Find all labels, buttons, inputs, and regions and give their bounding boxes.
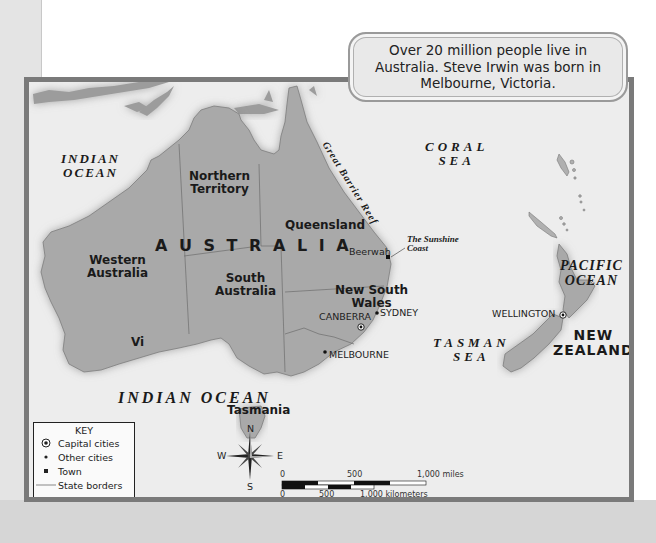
map-key: KEY Capital cities Other cities Town — [33, 422, 135, 497]
sydney-label: SYDNEY — [380, 307, 418, 318]
melbourne-city-marker — [323, 350, 327, 354]
compass-west-label: W — [217, 450, 226, 461]
tasmania-label: Tasmania — [227, 404, 290, 417]
scale-km-0: 0 — [280, 490, 285, 497]
canberra-label: CANBERRA — [319, 311, 371, 322]
indonesia-islands — [33, 82, 317, 116]
indian-ocean-nw-line1: INDIAN — [61, 152, 120, 166]
indian-ocean-label-nw: INDIAN OCEAN — [61, 152, 120, 179]
pacific-ocean-label: PACIFIC OCEAN — [560, 259, 623, 288]
scale-km-500: 500 — [319, 490, 334, 497]
scale-miles-500: 500 — [347, 470, 362, 479]
key-label-other-cities: Other cities — [58, 452, 113, 463]
town-square-icon — [34, 466, 58, 476]
scale-bar — [282, 481, 426, 489]
south-australia-label: South Australia — [215, 272, 276, 298]
wellington-label: WELLINGTON — [492, 308, 555, 319]
australia-country-label: A U S T R A L I A — [155, 236, 352, 255]
coral-sea-line2: SEA — [425, 154, 488, 168]
sydney-city-marker — [375, 311, 379, 315]
map-area: INDIAN OCEAN CORAL SEA PACIFIC OCEAN TAS… — [29, 82, 629, 497]
fact-callout-box: Over 20 million people live in Australia… — [348, 32, 628, 102]
scale-km-1000: 1,000 kilometers — [360, 490, 428, 497]
pacific-ocean-line2: OCEAN — [560, 274, 623, 289]
capital-city-icon — [34, 438, 58, 448]
coral-sea-line1: CORAL — [425, 140, 488, 154]
pacific-islands — [529, 154, 585, 238]
compass-north-label: N — [247, 423, 254, 434]
western-australia-label: Western Australia — [87, 254, 148, 280]
new-zealand-line2: ZEALAND — [553, 343, 629, 358]
tasman-sea-label: TASMAN SEA — [433, 336, 510, 363]
map-frame: INDIAN OCEAN CORAL SEA PACIFIC OCEAN TAS… — [24, 77, 634, 502]
scale-miles-0: 0 — [280, 470, 285, 479]
key-row-capital: Capital cities — [34, 436, 134, 450]
sunshine-coast-line2: Coast — [407, 244, 459, 253]
page-bottom-strip — [0, 500, 656, 543]
pacific-ocean-line1: PACIFIC — [560, 259, 623, 274]
sunshine-coast-leader-line — [391, 248, 405, 257]
new-zealand-label: NEW ZEALAND — [553, 328, 629, 359]
tasman-sea-line2: SEA — [433, 350, 510, 364]
state-border-line-icon — [34, 480, 58, 490]
scale-miles-1000: 1,000 miles — [417, 470, 464, 479]
compass-south-label: S — [247, 481, 253, 492]
tasman-sea-line1: TASMAN — [433, 336, 510, 350]
indian-ocean-nw-line2: OCEAN — [61, 166, 120, 180]
canberra-capital-marker — [358, 324, 364, 330]
key-title: KEY — [34, 425, 134, 436]
south-australia-line2: Australia — [215, 285, 276, 298]
western-australia-line2: Australia — [87, 267, 148, 280]
northern-territory-label: Northern Territory — [189, 170, 250, 196]
key-label-town: Town — [58, 466, 82, 477]
queensland-label: Queensland — [285, 219, 365, 232]
northern-territory-line2: Territory — [189, 183, 250, 196]
sunshine-coast-label: The Sunshine Coast — [407, 235, 459, 254]
compass-east-label: E — [277, 450, 283, 461]
victoria-label: Vi — [131, 336, 144, 349]
key-label-state-borders: State borders — [58, 480, 122, 491]
fact-callout-text: Over 20 million people live in Australia… — [368, 42, 608, 91]
key-row-state-borders: State borders — [34, 478, 134, 492]
city-dot-icon — [34, 452, 58, 462]
key-label-capital: Capital cities — [58, 438, 119, 449]
wellington-capital-marker — [560, 312, 566, 318]
key-row-other-cities: Other cities — [34, 450, 134, 464]
new-zealand-line1: NEW — [553, 328, 629, 343]
coral-sea-label: CORAL SEA — [425, 140, 488, 167]
melbourne-label: MELBOURNE — [329, 349, 389, 360]
compass-rose — [226, 432, 274, 480]
beerwah-label: Beerwah — [349, 246, 391, 257]
key-row-town: Town — [34, 464, 134, 478]
